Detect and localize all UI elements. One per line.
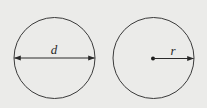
radius-label: r	[170, 43, 176, 58]
circle-diagram: d r	[0, 0, 207, 108]
radius-figure: r	[113, 18, 194, 99]
diameter-figure: d	[14, 18, 95, 99]
diameter-label: d	[51, 42, 58, 57]
